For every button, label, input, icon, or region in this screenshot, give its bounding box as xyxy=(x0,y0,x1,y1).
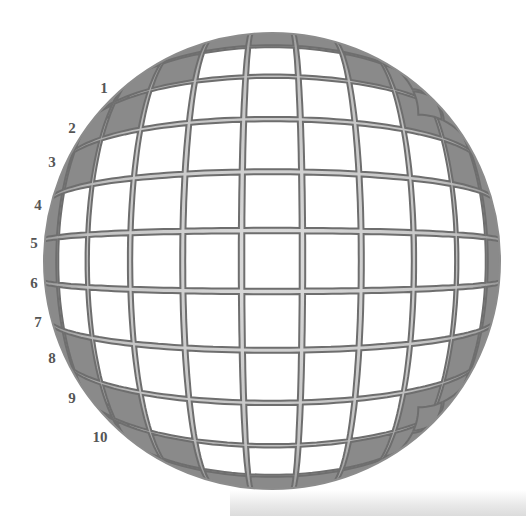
grid-tile xyxy=(59,187,90,236)
grid-tile xyxy=(59,287,90,336)
sphere-grid xyxy=(0,0,526,516)
grid-tile xyxy=(244,233,299,288)
grid-tile xyxy=(458,237,486,285)
grid-tile xyxy=(413,290,455,342)
grid-tile xyxy=(304,175,358,229)
grid-tile xyxy=(192,402,244,444)
grid-tile xyxy=(198,48,247,79)
grid-tile xyxy=(305,233,359,288)
grid-tile xyxy=(90,290,132,342)
grid-tile xyxy=(303,122,357,172)
row-label-9: 9 xyxy=(68,390,76,407)
grid-tile xyxy=(301,79,353,121)
grid-tile xyxy=(58,237,86,285)
grid-tile xyxy=(298,48,347,79)
grid-tile xyxy=(248,47,296,75)
grid-tile xyxy=(246,78,297,117)
grid-tile xyxy=(90,181,132,233)
row-label-3: 3 xyxy=(48,154,56,171)
row-label-4: 4 xyxy=(34,197,42,214)
row-label-8: 8 xyxy=(48,350,56,367)
grid-tile xyxy=(358,125,408,175)
grid-tile xyxy=(133,177,183,231)
grid-tile xyxy=(301,402,353,444)
grid-tile xyxy=(298,443,347,474)
grid-tile xyxy=(362,177,412,231)
grid-tile xyxy=(188,351,242,401)
grid-tile xyxy=(413,181,455,233)
grid-tile xyxy=(185,233,239,288)
grid-tile xyxy=(246,405,297,444)
grid-tile xyxy=(89,235,128,286)
grid-tile xyxy=(136,347,186,397)
row-label-2: 2 xyxy=(68,120,76,137)
grid-tile xyxy=(244,294,299,348)
grid-tile xyxy=(362,292,412,346)
grid-tile xyxy=(244,174,299,228)
grid-tile xyxy=(186,175,240,229)
grid-tile xyxy=(133,292,183,346)
row-label-7: 7 xyxy=(34,314,42,331)
row-label-1: 1 xyxy=(100,80,108,97)
grid-tile xyxy=(245,353,299,401)
grid-tile xyxy=(304,293,358,347)
grid-tile xyxy=(454,187,485,236)
grid-tile xyxy=(248,447,296,475)
grid-tile xyxy=(358,347,408,397)
grid-tile xyxy=(416,235,455,286)
grid-tile xyxy=(454,287,485,336)
grid-tile xyxy=(303,351,357,401)
row-label-5: 5 xyxy=(30,235,38,252)
grid-tile xyxy=(192,79,244,121)
row-label-6: 6 xyxy=(30,275,38,292)
grid-tile xyxy=(364,234,412,288)
grid-tile xyxy=(136,125,186,175)
row-label-10: 10 xyxy=(93,429,108,446)
grid-tile xyxy=(132,234,180,288)
grid-tile xyxy=(186,293,240,347)
grid-tile xyxy=(198,443,247,474)
grid-tile xyxy=(245,121,299,169)
grid-tile xyxy=(188,122,242,172)
